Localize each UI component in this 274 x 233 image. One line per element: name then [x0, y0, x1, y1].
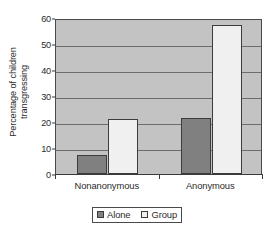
legend-item-group: Group	[141, 209, 177, 220]
y-axis-ticks: 0102030405060	[34, 0, 55, 233]
bars-group	[56, 20, 261, 174]
legend-label: Alone	[107, 209, 130, 220]
x-tick-mark	[262, 175, 263, 179]
y-axis-title-line2: transgressing	[19, 47, 30, 137]
legend-label: Group	[151, 209, 177, 220]
legend: AloneGroup	[92, 207, 182, 223]
bar-group-nonanonymous	[108, 119, 138, 174]
plot-area	[55, 19, 262, 175]
legend-swatch-icon	[97, 211, 104, 218]
y-axis-title: Percentage of children transgressing	[2, 12, 36, 172]
bar-alone-anonymous	[181, 118, 211, 174]
y-axis-title-line1: Percentage of children	[8, 47, 19, 137]
legend-item-alone: Alone	[97, 209, 130, 220]
bar-alone-nonanonymous	[77, 155, 107, 175]
bar-group-anonymous	[212, 25, 242, 175]
x-tick-label: Nonanonymous	[75, 180, 139, 191]
bar-chart-figure: Percentage of children transgressing 010…	[0, 0, 274, 233]
x-tick-mark	[159, 175, 160, 179]
legend-swatch-icon	[141, 211, 148, 218]
x-tick-label: Anonymous	[186, 180, 235, 191]
x-tick-mark	[55, 175, 56, 179]
